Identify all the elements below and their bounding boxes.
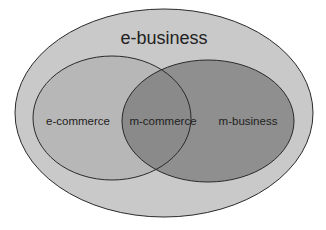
e-business-label: e-business (120, 28, 207, 48)
e-commerce-label: e-commerce (46, 115, 110, 127)
m-commerce-label: m-commerce (129, 115, 196, 127)
venn-diagram: e-business e-commerce m-commerce m-busin… (0, 0, 326, 230)
m-business-label: m-business (219, 115, 278, 127)
